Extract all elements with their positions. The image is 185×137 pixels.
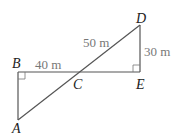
label-C: C [73,77,83,92]
diagram: B C D E A 40 m 50 m 30 m [0,0,185,137]
triangles-figure: B C D E A 40 m 50 m 30 m [0,0,185,137]
label-E: E [135,77,145,92]
length-BC: 40 m [35,57,61,72]
label-B: B [12,56,21,71]
length-CD: 50 m [83,35,109,50]
label-A: A [11,121,21,136]
label-D: D [135,11,146,26]
right-angle-E-icon [133,65,140,72]
right-angle-B-icon [18,72,25,79]
length-DE: 30 m [144,44,170,59]
